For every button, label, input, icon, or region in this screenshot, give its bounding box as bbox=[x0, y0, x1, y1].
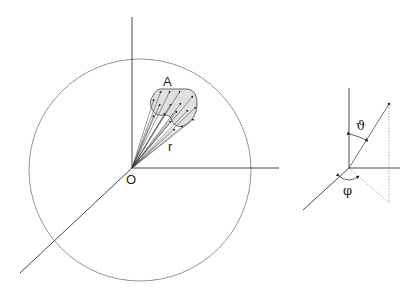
area-patch bbox=[150, 89, 197, 127]
origin-label: O bbox=[126, 172, 136, 187]
phi-arc bbox=[339, 176, 359, 180]
angles-panel: ϑ φ bbox=[303, 88, 400, 210]
area-label: A bbox=[163, 74, 172, 89]
position-vector bbox=[349, 104, 389, 168]
theta-label: ϑ bbox=[356, 118, 365, 133]
radius-label: r bbox=[168, 139, 173, 154]
x-axis bbox=[20, 168, 132, 273]
theta-arc bbox=[350, 134, 368, 141]
diagram: A r O ϑ φ bbox=[0, 0, 417, 305]
sphere-panel: A r O bbox=[20, 17, 279, 281]
sphere-circle bbox=[29, 59, 251, 281]
projection-floor bbox=[349, 168, 389, 203]
phi-label: φ bbox=[343, 183, 352, 198]
